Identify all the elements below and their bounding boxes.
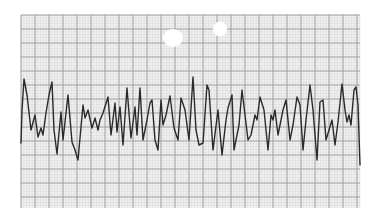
ecg-strip — [0, 0, 381, 223]
punch-hole — [163, 29, 183, 47]
punch-hole — [213, 22, 227, 37]
